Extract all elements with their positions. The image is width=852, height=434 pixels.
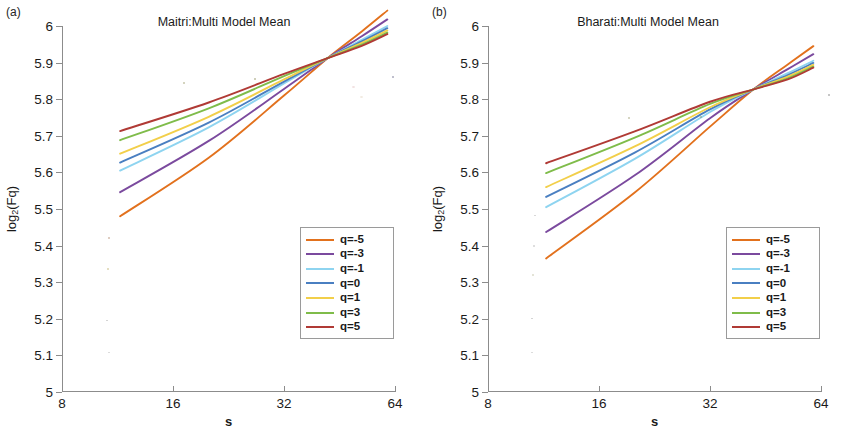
legend-entry-label: q=0 [340, 278, 360, 290]
y-axis-title-sub: 2 [10, 210, 20, 215]
y-tick-mark [482, 392, 488, 393]
y-tick-mark [482, 209, 488, 210]
legend-entry-label: q=5 [766, 321, 786, 333]
legend-entry[interactable]: q=3 [306, 305, 387, 320]
scan-artifact-speck [108, 237, 110, 239]
legend-entry[interactable]: q=-1 [732, 261, 813, 276]
scan-artifact-speck [828, 94, 830, 96]
y-tick-mark [482, 319, 488, 320]
legend-entry[interactable]: q=5 [306, 320, 387, 335]
x-tick-mark [284, 386, 285, 392]
y-tick-mark [56, 136, 62, 137]
legend-color-swatch [306, 297, 334, 299]
legend-color-swatch [306, 282, 334, 284]
x-tick-label: 64 [813, 396, 828, 411]
legend-entry[interactable]: q=-5 [306, 232, 387, 247]
y-tick-label: 5.9 [34, 55, 53, 70]
panel-a: (a) Maitri:Multi Model Mean s log2(Fq) 5… [0, 0, 426, 434]
y-tick-label: 5.3 [460, 275, 479, 290]
series-line-q3 [546, 67, 813, 174]
y-tick-label: 5.8 [34, 92, 53, 107]
y-tick-mark [56, 63, 62, 64]
legend-entry[interactable]: q=-3 [306, 247, 387, 262]
x-tick-label: 32 [702, 396, 717, 411]
scan-artifact-speck [700, 116, 702, 118]
legend-color-swatch [306, 268, 334, 270]
panel-b: (b) Bharati:Multi Model Mean s log2(Fq) … [426, 0, 852, 434]
y-tick-label: 5.2 [34, 311, 53, 326]
legend-entry[interactable]: q=-3 [732, 247, 813, 262]
legend-entry[interactable]: q=5 [732, 320, 813, 335]
y-tick-mark [56, 282, 62, 283]
legend-entry[interactable]: q=-1 [306, 261, 387, 276]
legend-entry-label: q=5 [340, 321, 360, 333]
y-tick-mark [56, 246, 62, 247]
legend-color-swatch [732, 312, 760, 314]
series-line-q1 [120, 30, 387, 153]
scan-artifact-speck [254, 78, 256, 80]
y-axis-title: log2(Fq) [4, 186, 20, 232]
y-axis-title-tail: (Fq) [430, 186, 445, 210]
y-tick-mark [56, 209, 62, 210]
y-tick-label: 5.9 [460, 55, 479, 70]
legend-entry-label: q=-3 [766, 248, 790, 260]
x-tick-mark [599, 386, 600, 392]
x-tick-label: 8 [484, 396, 492, 411]
y-tick-label: 5.1 [34, 348, 53, 363]
y-tick-mark [482, 355, 488, 356]
legend-entry-label: q=-3 [340, 248, 364, 260]
legend-entry-label: q=-1 [340, 263, 364, 275]
legend-color-swatch [732, 239, 760, 241]
legend-entry-label: q=-1 [766, 263, 790, 275]
series-line-qneg3 [120, 19, 387, 192]
legend-entry[interactable]: q=1 [306, 291, 387, 306]
x-tick-label: 64 [387, 396, 402, 411]
y-axis-title-main: log [4, 215, 19, 232]
scan-artifact-speck [533, 245, 535, 247]
x-tick-mark [710, 386, 711, 392]
legend-entry[interactable]: q=0 [732, 276, 813, 291]
figure-canvas: (a) Maitri:Multi Model Mean s log2(Fq) 5… [0, 0, 852, 434]
legend-color-swatch [732, 297, 760, 299]
legend-color-swatch [306, 312, 334, 314]
legend-entry[interactable]: q=3 [732, 305, 813, 320]
series-line-qneg5 [120, 11, 387, 217]
y-tick-label: 5.7 [34, 128, 53, 143]
x-tick-mark [173, 386, 174, 392]
legend-entry[interactable]: q=0 [306, 276, 387, 291]
legend-color-swatch [732, 253, 760, 255]
y-tick-mark [56, 99, 62, 100]
y-tick-label: 6 [471, 19, 479, 34]
scan-artifact-speck [392, 76, 394, 78]
scan-artifact-speck [628, 117, 630, 119]
y-tick-label: 5 [45, 385, 53, 400]
legend-entry-label: q=-5 [766, 234, 790, 246]
scan-artifact-speck [532, 274, 534, 276]
scan-artifact-speck [352, 86, 355, 88]
legend-entry-label: q=1 [766, 292, 786, 304]
x-axis-title: s [62, 414, 395, 429]
y-tick-label: 5.3 [34, 275, 53, 290]
legend-entry-label: q=3 [340, 307, 360, 319]
legend-color-swatch [732, 282, 760, 284]
y-axis-title: log2(Fq) [430, 186, 446, 232]
x-tick-label: 32 [276, 396, 291, 411]
legend-entry-label: q=3 [766, 307, 786, 319]
y-tick-label: 5.4 [460, 238, 479, 253]
y-tick-mark [482, 99, 488, 100]
legend-entry[interactable]: q=1 [732, 291, 813, 306]
legend-color-swatch [732, 268, 760, 270]
y-tick-mark [482, 172, 488, 173]
legend-entry[interactable]: q=-5 [732, 232, 813, 247]
panel-b-legend: q=-5q=-3q=-1q=0q=1q=3q=5 [726, 227, 820, 339]
y-tick-mark [56, 172, 62, 173]
x-tick-mark [821, 386, 822, 392]
y-axis-title-tail: (Fq) [4, 186, 19, 210]
x-tick-label: 16 [591, 396, 606, 411]
y-tick-mark [482, 246, 488, 247]
y-tick-label: 5 [471, 385, 479, 400]
legend-entry-label: q=0 [766, 278, 786, 290]
x-tick-label: 8 [58, 396, 66, 411]
scan-artifact-speck [107, 268, 109, 270]
y-tick-label: 5.6 [460, 165, 479, 180]
